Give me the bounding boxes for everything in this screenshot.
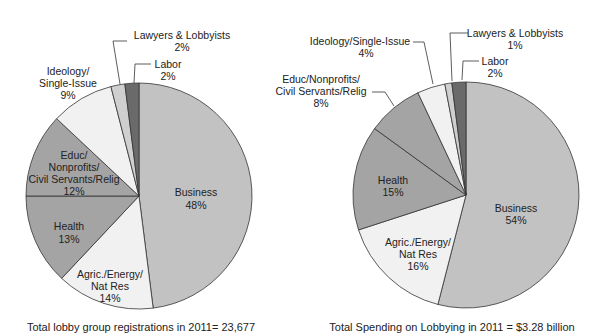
label-agric-name: Agric./Energy/ (385, 236, 451, 248)
label-agric-pct: 14% (99, 292, 120, 304)
label-ideology-name2: Single-Issue (39, 77, 97, 89)
leader-line-lawyers (113, 41, 127, 84)
label-business-name: Business (495, 202, 538, 214)
leader-line-lawyers (450, 33, 468, 81)
label-ideology-name: Ideology/Single-Issue (310, 35, 411, 47)
label-educ-name: Educ/Nonprofits/ (282, 73, 360, 85)
label-educ-name2: Civil Servants/Relig (275, 85, 366, 97)
label-business-pct: 54% (505, 214, 526, 226)
label-agric-pct: 16% (407, 260, 428, 272)
label-lawyers-name: Lawyers & Lobbyists (134, 29, 230, 41)
leader-line-labor (462, 61, 479, 80)
label-health-name: Health (378, 174, 409, 186)
caption-spending: Total Spending on Lobbying in 2011 = $3.… (329, 321, 574, 333)
label-educ-name3: Civil Servants/Relig (28, 173, 119, 185)
pie-charts: Business 48% Agric./Energy/ Nat Res 14% … (0, 0, 592, 335)
label-health-pct: 15% (382, 186, 403, 198)
label-health-pct: 13% (58, 233, 79, 245)
label-labor-name: Labor (482, 55, 509, 67)
label-lawyers-pct: 2% (174, 41, 189, 53)
label-agric-name2: Nat Res (91, 280, 129, 292)
caption-registrations: Total lobby group registrations in 2011=… (27, 321, 255, 333)
label-lawyers-pct: 1% (507, 39, 522, 51)
label-educ-pct: 8% (313, 97, 328, 109)
label-agric-name: Agric./Energy/ (77, 268, 143, 280)
leader-line-labor (134, 64, 151, 83)
label-business-name: Business (175, 186, 218, 198)
label-ideology-name: Ideology/ (47, 65, 90, 77)
label-health-name: Health (54, 220, 85, 232)
label-ideology-pct: 9% (60, 89, 75, 101)
label-business-pct: 48% (185, 199, 206, 211)
leader-line-ideology (413, 42, 433, 84)
leader-line-educ (372, 92, 394, 106)
label-agric-name2: Nat Res (399, 248, 437, 260)
label-lawyers-name: Lawyers & Lobbyists (467, 27, 563, 39)
label-labor-name: Labor (155, 58, 182, 70)
label-educ-pct: 12% (63, 185, 84, 197)
label-educ-name2: Nonprofits/ (49, 161, 100, 173)
label-labor-pct: 2% (487, 67, 502, 79)
label-labor-pct: 2% (160, 70, 175, 82)
label-ideology-pct: 4% (358, 47, 373, 59)
label-educ-name: Educ/ (61, 149, 88, 161)
